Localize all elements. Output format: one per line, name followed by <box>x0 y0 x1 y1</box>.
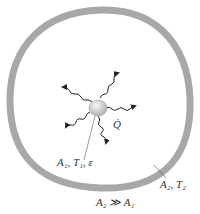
radiation-enclosure-diagram: Q̇ A₁, T₁, ε A₂, T₂ A₂ ≫ A₁ <box>0 0 200 214</box>
heat-rate-label: Q̇ <box>113 118 121 130</box>
area-condition-label: A₂ ≫ A₁ <box>96 196 134 209</box>
small-body-label: A₁, T₁, ε <box>57 156 93 168</box>
small-body-sphere <box>89 100 107 116</box>
enclosure-ring <box>10 10 190 188</box>
small-body-leader-line <box>84 116 95 160</box>
enclosure-label: A₂, T₂ <box>160 178 186 190</box>
